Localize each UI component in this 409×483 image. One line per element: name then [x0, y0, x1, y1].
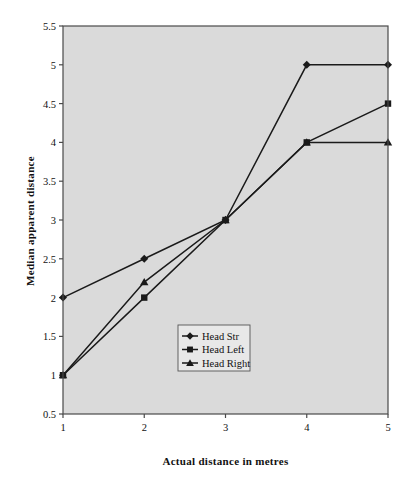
- plot-area: Head StrHead LeftHead Right: [0, 0, 409, 483]
- x-tick-label: 1: [60, 422, 65, 433]
- y-tick-label: 1: [20, 370, 56, 381]
- x-tick-label: 2: [142, 422, 147, 433]
- y-tick-label: 3: [20, 215, 56, 226]
- y-tick-label: 2.5: [20, 253, 56, 264]
- y-tick-label: 1.5: [20, 331, 56, 342]
- legend-label: Head Left: [202, 344, 244, 355]
- y-tick-label: 5.5: [20, 21, 56, 32]
- legend-label: Head Right: [202, 358, 250, 369]
- legend-label: Head Str: [202, 331, 240, 342]
- chart-legend[interactable]: Head StrHead LeftHead Right: [178, 325, 250, 371]
- y-tick-label: 0.5: [20, 409, 56, 420]
- y-tick-label: 4.5: [20, 98, 56, 109]
- y-tick-label: 3.5: [20, 176, 56, 187]
- y-tick-label: 4: [20, 137, 56, 148]
- x-tick-label: 3: [223, 422, 228, 433]
- chart-container: Median apparent distance Actual distance…: [0, 0, 409, 483]
- square-marker: [141, 294, 147, 300]
- x-tick-label: 5: [385, 422, 390, 433]
- x-tick-label: 4: [304, 422, 309, 433]
- square-marker: [187, 347, 193, 353]
- y-tick-label: 5: [20, 59, 56, 70]
- y-tick-label: 2: [20, 292, 56, 303]
